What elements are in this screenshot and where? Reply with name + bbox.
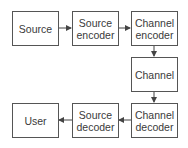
node-label-line2: encoder — [77, 29, 115, 41]
node-channel-decoder: Channel decoder — [131, 103, 178, 138]
node-source: Source — [12, 11, 59, 46]
node-channel: Channel — [131, 57, 178, 92]
node-user: User — [12, 103, 59, 138]
node-label-line2: encoder — [136, 29, 174, 41]
node-label-line1: Source — [79, 109, 112, 121]
node-label-line1: Source — [79, 17, 112, 29]
node-channel-encoder: Channel encoder — [131, 11, 178, 46]
node-source-decoder: Source decoder — [72, 103, 119, 138]
node-label: User — [24, 115, 46, 127]
node-label: Channel — [135, 69, 174, 81]
node-label-line1: Channel — [135, 109, 174, 121]
node-label-line2: decoder — [77, 121, 115, 133]
node-label: Source — [19, 23, 52, 35]
node-label-line2: decoder — [136, 121, 174, 133]
node-label-line1: Channel — [135, 17, 174, 29]
node-source-encoder: Source encoder — [72, 11, 119, 46]
